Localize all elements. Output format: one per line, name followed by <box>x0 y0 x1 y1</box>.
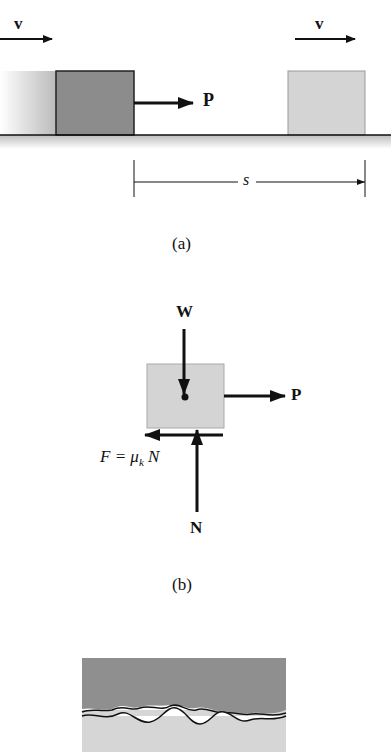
friction-label-tail: N <box>148 447 159 466</box>
figure-a <box>0 39 391 197</box>
normal-label: N <box>190 518 202 538</box>
distance-label: s <box>243 171 249 189</box>
friction-label-subscript: k <box>139 456 144 468</box>
force-p-label-b: P <box>291 385 301 405</box>
weight-label: W <box>176 302 193 322</box>
friction-label: F = μk N <box>100 447 159 468</box>
diagram-canvas <box>0 0 391 752</box>
block-initial <box>56 71 134 135</box>
force-p-label: P <box>203 90 214 111</box>
caption-b: (b) <box>172 575 192 595</box>
friction-label-main: F = μ <box>100 447 139 466</box>
upper-surface <box>82 658 286 713</box>
figure-c <box>82 658 286 752</box>
block-final <box>288 71 365 135</box>
center-of-mass-dot <box>182 394 189 401</box>
velocity-left-label: v <box>14 14 23 34</box>
motion-blur <box>0 71 56 135</box>
ground-shading <box>0 135 391 149</box>
velocity-right-label: v <box>315 14 324 34</box>
figure-b <box>145 329 285 512</box>
caption-a: (a) <box>172 234 191 254</box>
